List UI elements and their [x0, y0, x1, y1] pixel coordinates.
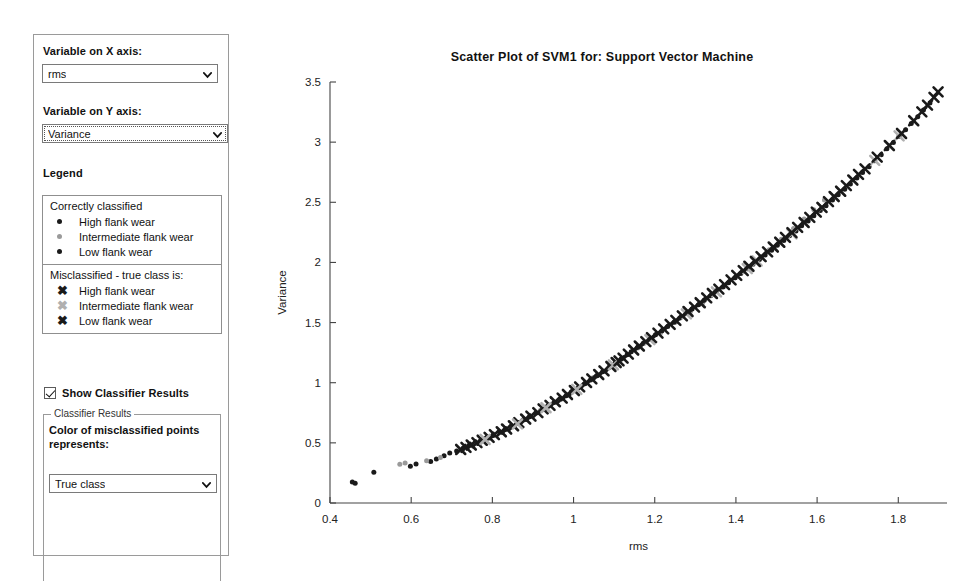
x-axis-select-value: rms — [48, 68, 66, 80]
scatter-plot-svg: 00.511.522.533.50.40.60.811.21.41.61.8rm… — [245, 30, 959, 570]
legend-box: Correctly classified High flank wearInte… — [42, 195, 222, 334]
legend-item: ✖Intermediate flank wear — [43, 298, 221, 313]
x-axis-tick-label: 1.6 — [809, 513, 825, 525]
y-axis-tick-label: 1 — [315, 377, 321, 389]
y-axis-tick-label: 2 — [315, 256, 321, 268]
scatter-point-dot — [447, 451, 452, 456]
dot-icon — [57, 249, 62, 254]
dot-icon — [57, 234, 62, 239]
x-axis-tick-label: 1.8 — [890, 513, 906, 525]
chevron-down-icon — [203, 69, 212, 78]
y-axis-tick-label: 2.5 — [305, 196, 321, 208]
x-axis-variable-select[interactable]: rms — [42, 64, 218, 83]
x-axis-tick-label: 0.6 — [403, 513, 419, 525]
scatter-point-dot — [353, 481, 358, 486]
scatter-point-dot — [397, 462, 402, 467]
classifier-results-fieldset: Classifier Results Color of misclassifie… — [43, 414, 221, 581]
x-axis-title: rms — [629, 540, 648, 552]
y-axis-variable-select[interactable]: Variance — [42, 124, 228, 143]
legend-x-icon: ✖ — [57, 314, 79, 327]
legend-x-icon: ✖ — [57, 299, 79, 312]
series-misclassified-low-flank-wear — [615, 87, 943, 365]
legend-group-misclassified: Misclassified - true class is: ✖High fla… — [43, 264, 221, 333]
y-axis-tick-label: 0 — [315, 497, 321, 509]
scatter-plot-area: Scatter Plot of SVM1 for: Support Vector… — [245, 30, 959, 570]
series-correctly-classified-high-flank-wear — [350, 352, 630, 485]
scatter-point-dot — [424, 458, 429, 463]
x-icon: ✖ — [57, 299, 68, 312]
legend-item-label: High flank wear — [79, 216, 155, 228]
legend-dot-icon — [57, 234, 79, 239]
legend-dot-icon — [57, 249, 79, 254]
x-axis-tick-label: 1.2 — [647, 513, 663, 525]
scatter-point-dot — [438, 455, 443, 460]
y-axis-title: Variance — [276, 270, 288, 315]
series-correctly-classified-low-flank-wear — [629, 101, 933, 355]
misclassified-color-select-value: True class — [55, 478, 105, 490]
classifier-color-description: Color of misclassified points represents… — [49, 423, 219, 451]
legend-item-label: Low flank wear — [79, 246, 152, 258]
legend-item-label: High flank wear — [79, 285, 155, 297]
legend-misclassified-heading: Misclassified - true class is: — [43, 269, 221, 281]
x-icon: ✖ — [57, 284, 68, 297]
show-classifier-results-row[interactable]: Show Classifier Results — [44, 387, 189, 399]
scatter-points-group — [350, 87, 943, 485]
y-axis-select-value: Variance — [48, 128, 91, 140]
dot-icon — [57, 219, 62, 224]
legend-item: ✖High flank wear — [43, 283, 221, 298]
legend-item: High flank wear — [43, 214, 221, 229]
legend-group-correct: Correctly classified High flank wearInte… — [43, 196, 221, 264]
x-axis-tick-label: 1 — [570, 513, 576, 525]
series-misclassified-intermediate-flank-wear — [481, 131, 904, 444]
legend-item: Intermediate flank wear — [43, 229, 221, 244]
legend-correct-heading: Correctly classified — [43, 200, 221, 212]
y-axis-tick-label: 3 — [315, 136, 321, 148]
scatter-point-dot — [414, 461, 419, 466]
misclassified-color-select[interactable]: True class — [49, 474, 217, 493]
x-axis-variable-label: Variable on X axis: — [43, 45, 142, 57]
legend-item-label: Intermediate flank wear — [79, 231, 193, 243]
y-axis-tick-label: 1.5 — [305, 317, 321, 329]
chevron-down-icon — [213, 129, 222, 138]
x-axis-tick-label: 0.8 — [484, 513, 500, 525]
show-classifier-results-checkbox[interactable] — [44, 387, 56, 399]
legend-title: Legend — [43, 167, 83, 179]
y-axis-variable-label: Variable on Y axis: — [43, 105, 142, 117]
x-axis-tick-label: 0.4 — [322, 513, 339, 525]
control-panel: Variable on X axis: rms Variable on Y ax… — [33, 34, 229, 556]
legend-item: ✖Low flank wear — [43, 313, 221, 328]
x-axis-tick-label: 1.4 — [728, 513, 745, 525]
series-misclassified-high-flank-wear — [456, 358, 620, 454]
chevron-down-icon — [202, 479, 211, 488]
scatter-point-dot — [408, 464, 413, 469]
y-axis-tick-label: 0.5 — [305, 437, 321, 449]
scatter-point-dot — [371, 470, 376, 475]
legend-item-label: Low flank wear — [79, 315, 152, 327]
scatter-point-dot — [403, 461, 408, 466]
x-icon: ✖ — [57, 314, 68, 327]
legend-dot-icon — [57, 219, 79, 224]
series-correctly-classified-intermediate-flank-wear — [397, 198, 827, 467]
classifier-results-fieldset-legend: Classifier Results — [51, 408, 134, 419]
legend-item-label: Intermediate flank wear — [79, 300, 193, 312]
y-axis-tick-label: 3.5 — [305, 76, 321, 88]
legend-x-icon: ✖ — [57, 284, 79, 297]
show-classifier-results-label: Show Classifier Results — [62, 387, 189, 399]
legend-item: Low flank wear — [43, 244, 221, 259]
